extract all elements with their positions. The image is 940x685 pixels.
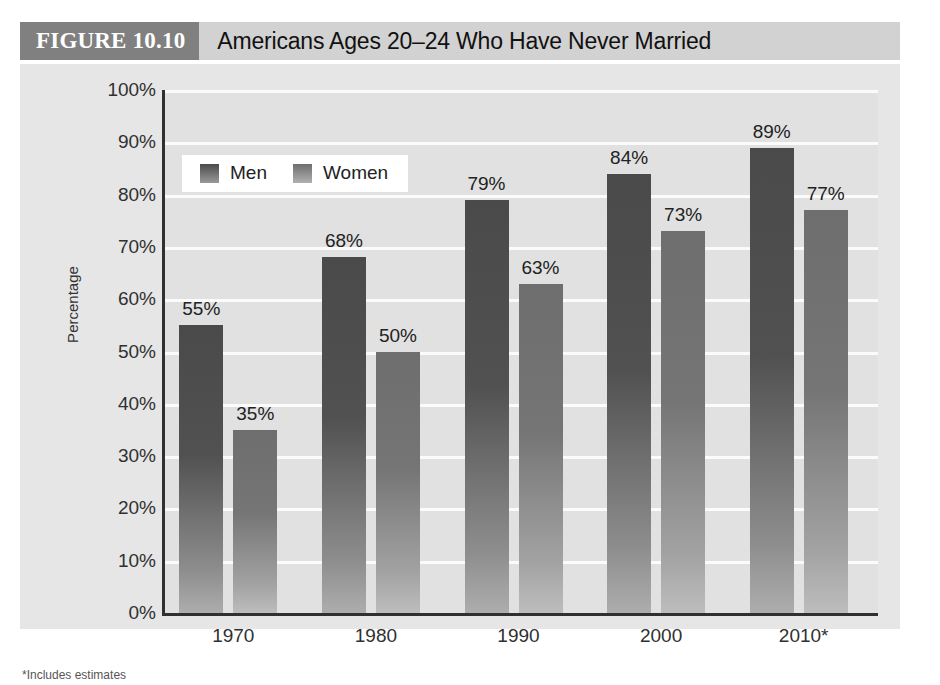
legend-swatch-icon bbox=[200, 164, 219, 183]
y-axis-tick-label: 90% bbox=[96, 131, 156, 153]
bar-women-1970 bbox=[233, 430, 277, 613]
bar-value-label: 79% bbox=[452, 173, 522, 195]
y-axis-tick-label: 70% bbox=[96, 236, 156, 258]
bar-value-label: 73% bbox=[648, 204, 718, 226]
bar-men-1990 bbox=[465, 200, 509, 613]
bar-value-label: 84% bbox=[594, 147, 664, 169]
x-axis-tick-label: 2010* bbox=[732, 625, 875, 647]
bar-men-1970 bbox=[179, 325, 223, 613]
y-axis-tick-label: 10% bbox=[96, 550, 156, 572]
legend-label: Women bbox=[323, 162, 388, 184]
figure-container: FIGURE 10.10 Americans Ages 20–24 Who Ha… bbox=[0, 0, 940, 685]
figure-footnote: *Includes estimates bbox=[22, 668, 126, 684]
gridline bbox=[165, 142, 878, 145]
y-axis-tick-label: 30% bbox=[96, 445, 156, 467]
bar-value-label: 77% bbox=[791, 183, 861, 205]
bar-women-1980 bbox=[376, 352, 420, 614]
y-axis-tick-label: 60% bbox=[96, 288, 156, 310]
bar-men-2000 bbox=[607, 174, 651, 613]
y-axis-tick-label: 100% bbox=[96, 79, 156, 101]
figure-title: Americans Ages 20–24 Who Have Never Marr… bbox=[199, 28, 711, 55]
chart-panel: Percentage 0%10%20%30%40%50%60%70%80%90%… bbox=[20, 64, 900, 629]
y-axis-tick-label: 0% bbox=[96, 602, 156, 624]
bar-value-label: 50% bbox=[363, 325, 433, 347]
legend-swatch-icon bbox=[293, 164, 312, 183]
y-axis-tick-label: 80% bbox=[96, 184, 156, 206]
figure-header-bar: FIGURE 10.10 Americans Ages 20–24 Who Ha… bbox=[20, 22, 900, 60]
bar-value-label: 63% bbox=[506, 257, 576, 279]
legend-item-women: Women bbox=[293, 162, 388, 184]
y-axis-tick-label: 40% bbox=[96, 393, 156, 415]
bar-value-label: 89% bbox=[737, 121, 807, 143]
legend-label: Men bbox=[230, 162, 267, 184]
x-axis-tick-label: 1990 bbox=[447, 625, 590, 647]
legend-item-men: Men bbox=[200, 162, 267, 184]
bar-women-2000 bbox=[661, 231, 705, 613]
chart-legend: MenWomen bbox=[182, 155, 408, 192]
y-axis-tick-label: 50% bbox=[96, 341, 156, 363]
bar-value-label: 55% bbox=[166, 298, 236, 320]
bar-value-label: 68% bbox=[309, 230, 379, 252]
x-axis-tick-label: 1980 bbox=[305, 625, 448, 647]
gridline bbox=[165, 90, 878, 93]
bar-value-label: 35% bbox=[220, 403, 290, 425]
bar-women-1990 bbox=[519, 284, 563, 613]
bar-women-2010 bbox=[804, 210, 848, 613]
x-axis-tick-label: 2000 bbox=[590, 625, 733, 647]
bar-men-1980 bbox=[322, 257, 366, 613]
x-axis-tick-label: 1970 bbox=[162, 625, 305, 647]
bar-men-2010 bbox=[750, 148, 794, 613]
y-axis-tick-labels: 0%10%20%30%40%50%60%70%80%90%100% bbox=[82, 90, 156, 613]
figure-number-tag: FIGURE 10.10 bbox=[20, 22, 199, 60]
y-axis-title: Percentage bbox=[64, 245, 81, 365]
y-axis-tick-label: 20% bbox=[96, 497, 156, 519]
